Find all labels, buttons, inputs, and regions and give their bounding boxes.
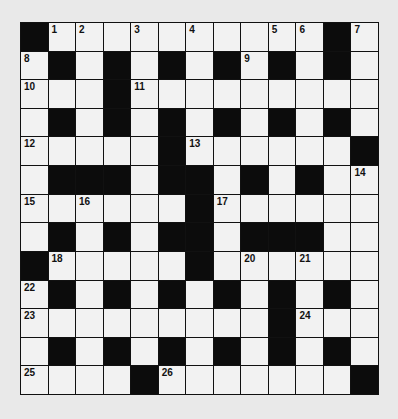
answer-cell[interactable] [241,137,268,165]
answer-cell[interactable] [104,23,131,51]
answer-cell[interactable] [241,195,268,223]
answer-cell[interactable] [186,309,213,337]
answer-cell[interactable] [324,252,351,280]
answer-cell[interactable] [76,252,103,280]
answer-cell[interactable] [214,137,241,165]
answer-cell[interactable] [49,366,76,394]
answer-cell[interactable] [324,166,351,194]
answer-cell[interactable]: 9 [241,52,268,80]
answer-cell[interactable] [131,338,158,366]
answer-cell[interactable] [351,195,378,223]
answer-cell[interactable] [241,309,268,337]
answer-cell[interactable] [131,195,158,223]
answer-cell[interactable]: 17 [214,195,241,223]
answer-cell[interactable] [186,366,213,394]
answer-cell[interactable] [76,338,103,366]
answer-cell[interactable] [21,223,48,251]
answer-cell[interactable] [21,109,48,137]
answer-cell[interactable] [241,23,268,51]
answer-cell[interactable] [159,252,186,280]
answer-cell[interactable] [131,252,158,280]
answer-cell[interactable]: 23 [21,309,48,337]
answer-cell[interactable]: 6 [296,23,323,51]
answer-cell[interactable] [186,109,213,137]
answer-cell[interactable] [269,80,296,108]
answer-cell[interactable]: 10 [21,80,48,108]
answer-cell[interactable]: 26 [159,366,186,394]
answer-cell[interactable]: 24 [296,309,323,337]
answer-cell[interactable] [186,80,213,108]
answer-cell[interactable] [351,309,378,337]
answer-cell[interactable] [159,23,186,51]
answer-cell[interactable]: 7 [351,23,378,51]
answer-cell[interactable] [49,309,76,337]
answer-cell[interactable] [324,80,351,108]
answer-cell[interactable]: 25 [21,366,48,394]
answer-cell[interactable] [49,137,76,165]
answer-cell[interactable]: 3 [131,23,158,51]
answer-cell[interactable] [159,309,186,337]
answer-cell[interactable] [351,52,378,80]
answer-cell[interactable] [351,252,378,280]
answer-cell[interactable] [104,366,131,394]
answer-cell[interactable] [324,137,351,165]
answer-cell[interactable] [131,166,158,194]
answer-cell[interactable] [269,195,296,223]
answer-cell[interactable] [296,80,323,108]
answer-cell[interactable] [49,195,76,223]
answer-cell[interactable]: 4 [186,23,213,51]
answer-cell[interactable]: 16 [76,195,103,223]
answer-cell[interactable] [351,223,378,251]
answer-cell[interactable] [49,80,76,108]
answer-cell[interactable] [296,338,323,366]
answer-cell[interactable] [269,137,296,165]
answer-cell[interactable] [131,309,158,337]
answer-cell[interactable] [131,109,158,137]
answer-cell[interactable] [159,195,186,223]
answer-cell[interactable] [186,52,213,80]
answer-cell[interactable] [76,366,103,394]
answer-cell[interactable]: 5 [269,23,296,51]
answer-cell[interactable] [186,338,213,366]
answer-cell[interactable]: 12 [21,137,48,165]
answer-cell[interactable] [296,109,323,137]
answer-cell[interactable] [269,252,296,280]
answer-cell[interactable]: 1 [49,23,76,51]
answer-cell[interactable]: 13 [186,137,213,165]
answer-cell[interactable] [351,109,378,137]
answer-cell[interactable] [324,366,351,394]
answer-cell[interactable] [131,223,158,251]
answer-cell[interactable] [104,195,131,223]
answer-cell[interactable] [76,281,103,309]
answer-cell[interactable] [296,366,323,394]
answer-cell[interactable] [296,52,323,80]
answer-cell[interactable] [351,80,378,108]
answer-cell[interactable] [76,309,103,337]
answer-cell[interactable] [214,252,241,280]
answer-cell[interactable] [159,80,186,108]
answer-cell[interactable] [241,338,268,366]
answer-cell[interactable]: 2 [76,23,103,51]
answer-cell[interactable] [104,137,131,165]
answer-cell[interactable] [104,252,131,280]
answer-cell[interactable]: 11 [131,80,158,108]
answer-cell[interactable] [131,137,158,165]
answer-cell[interactable] [296,281,323,309]
answer-cell[interactable]: 8 [21,52,48,80]
answer-cell[interactable] [21,166,48,194]
answer-cell[interactable] [104,309,131,337]
answer-cell[interactable] [241,281,268,309]
answer-cell[interactable] [351,281,378,309]
answer-cell[interactable] [214,366,241,394]
answer-cell[interactable]: 18 [49,252,76,280]
answer-cell[interactable]: 22 [21,281,48,309]
answer-cell[interactable] [76,137,103,165]
answer-cell[interactable] [324,223,351,251]
answer-cell[interactable] [76,80,103,108]
answer-cell[interactable]: 21 [296,252,323,280]
answer-cell[interactable] [351,338,378,366]
answer-cell[interactable] [269,366,296,394]
answer-cell[interactable] [214,166,241,194]
answer-cell[interactable]: 20 [241,252,268,280]
answer-cell[interactable] [131,281,158,309]
